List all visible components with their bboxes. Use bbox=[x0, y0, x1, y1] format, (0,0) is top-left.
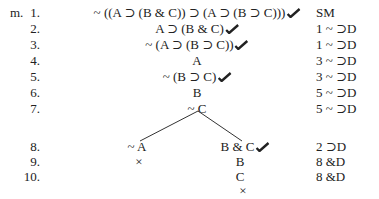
checkmark-icon bbox=[255, 142, 269, 152]
justification-10: 8 &D bbox=[316, 170, 345, 184]
justification-9: 8 &D bbox=[316, 155, 345, 169]
right-branch-formula-9: B bbox=[236, 155, 245, 169]
right-branch-closed-marker: × bbox=[239, 184, 246, 198]
right-branch-formula-10: C bbox=[236, 170, 245, 184]
right-branch-formula-8-text: B & C bbox=[221, 139, 255, 154]
line-number-8: 8. bbox=[0, 140, 40, 154]
line-number-10: 10. bbox=[0, 170, 40, 184]
line-number-9: 9. bbox=[0, 155, 40, 169]
right-branch-formula-8: B & C bbox=[221, 140, 270, 154]
left-branch-formula-8: ~ A bbox=[128, 140, 147, 154]
left-branch-closed-marker: × bbox=[135, 155, 142, 169]
justification-8: 2 ⊃D bbox=[316, 140, 346, 154]
